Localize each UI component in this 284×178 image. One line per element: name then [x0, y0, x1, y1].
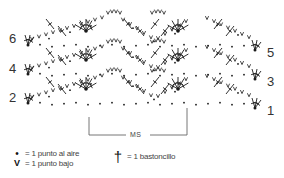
row-number-3: 3: [267, 75, 274, 88]
row-number-1: 1: [267, 104, 274, 117]
double-crochet-icon: †: [113, 148, 123, 165]
legend-double-crochet: † = 1 bastoncillo: [113, 148, 175, 165]
row-number-5: 5: [267, 46, 274, 59]
row-number-4: 4: [9, 62, 16, 75]
legend-single-crochet: V = 1 punto bajo: [12, 158, 73, 168]
row-number-6: 6: [9, 32, 16, 45]
single-crochet-icon: V: [12, 158, 22, 168]
legend-single-crochet-label: = 1 punto bajo: [25, 159, 73, 168]
legend-double-crochet-label: = 1 bastoncillo: [127, 152, 175, 161]
row-number-2: 2: [9, 91, 16, 104]
legend-chain-label: = 1 punto al aire: [25, 149, 79, 158]
repeat-label: MS: [130, 131, 141, 138]
